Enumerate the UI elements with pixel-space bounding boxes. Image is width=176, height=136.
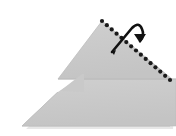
fold-dot [153,65,157,69]
fold-dot [144,57,148,61]
fold-dot [105,23,109,27]
fold-dot [124,40,128,44]
fold-dot [163,74,167,78]
fold-dot [110,27,114,31]
fold-dot [134,48,138,52]
origami-diagram [0,0,176,136]
fold-dot [114,32,118,36]
fold-dot [129,44,133,48]
fold-dot [158,69,162,73]
fold-dot [139,53,143,57]
fold-dot [148,61,152,65]
fold-dot [168,78,172,82]
origami-diagram-canvas [0,0,176,136]
fold-dot [100,19,104,23]
